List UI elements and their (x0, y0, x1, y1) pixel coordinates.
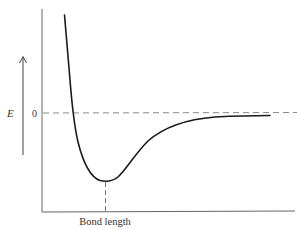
x-axis-label: Bond length (79, 216, 131, 227)
potential-energy-diagram: E 0 Bond length (0, 0, 297, 229)
potential-energy-curve (65, 15, 271, 181)
zero-label: 0 (32, 108, 37, 119)
zero-energy-dashed-line (43, 113, 297, 114)
x-axis (42, 211, 295, 212)
energy-arrow-icon (20, 57, 27, 156)
y-axis-label: E (6, 107, 14, 119)
